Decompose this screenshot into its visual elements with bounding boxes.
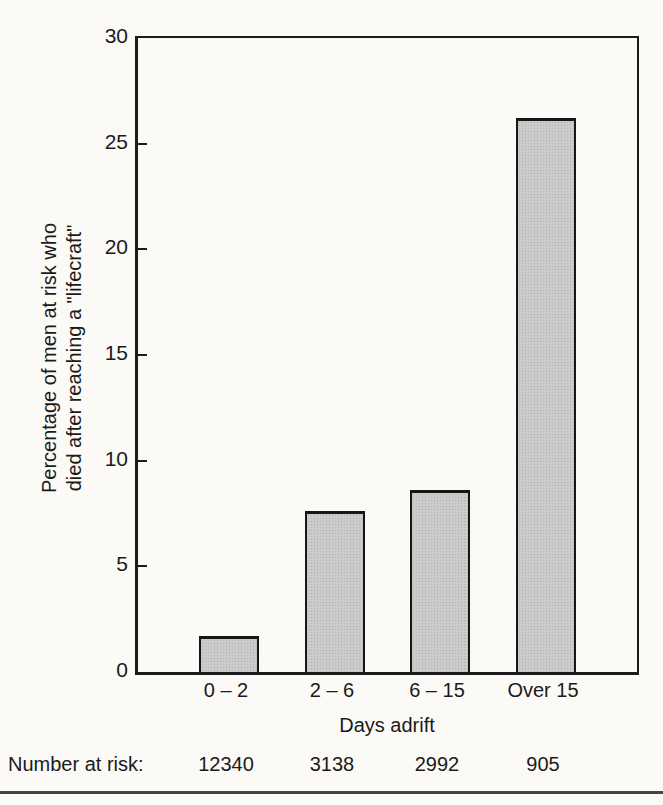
figure: Percentage of men at risk whodied after … bbox=[0, 0, 663, 805]
x-axis-title: Days adrift bbox=[237, 714, 537, 737]
y-tick-mark-20 bbox=[138, 248, 147, 250]
y-tick-label-5: 5 bbox=[84, 553, 128, 575]
bottom-rule bbox=[0, 791, 663, 794]
plot-area bbox=[135, 36, 639, 675]
y-tick-mark-10 bbox=[138, 460, 147, 462]
bar-3 bbox=[410, 490, 470, 672]
y-tick-label-10: 10 bbox=[84, 448, 128, 470]
x-tick-label-4: Over 15 bbox=[473, 679, 613, 702]
y-axis-title-line2: died after reaching a "lifecraft" bbox=[63, 225, 85, 492]
y-tick-label-20: 20 bbox=[84, 236, 128, 258]
number-at-risk-label: Number at risk: bbox=[8, 753, 144, 776]
y-tick-mark-5 bbox=[138, 565, 147, 567]
number-at-risk-value-4: 905 bbox=[473, 753, 613, 776]
y-axis-title-line1: Percentage of men at risk who bbox=[38, 223, 60, 493]
y-axis-tick-labels: 051015202530 bbox=[84, 36, 128, 670]
y-tick-label-15: 15 bbox=[84, 342, 128, 364]
y-tick-label-30: 30 bbox=[84, 25, 128, 47]
y-tick-label-0: 0 bbox=[84, 659, 128, 681]
y-tick-mark-15 bbox=[138, 354, 147, 356]
y-tick-mark-25 bbox=[138, 143, 147, 145]
y-tick-label-25: 25 bbox=[84, 131, 128, 153]
bar-4 bbox=[516, 118, 576, 672]
y-axis-title: Percentage of men at risk whodied after … bbox=[37, 143, 87, 573]
bar-2 bbox=[305, 511, 365, 672]
bar-1 bbox=[199, 636, 259, 672]
